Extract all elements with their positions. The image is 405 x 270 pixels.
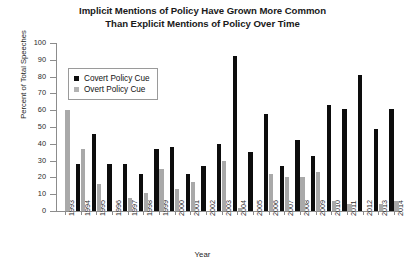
bar-overt-2013 (379, 204, 383, 211)
x-axis-tick (65, 211, 66, 215)
x-axis-tick (300, 211, 301, 215)
y-axis-tick (50, 211, 56, 212)
y-axis-tick (50, 194, 56, 195)
bar-covert-1996 (107, 164, 111, 211)
legend-label-covert: Covert Policy Cue (84, 74, 150, 83)
y-axis-tick (50, 110, 56, 111)
bar-covert-2011 (342, 109, 346, 211)
x-axis-title: Year (0, 250, 405, 259)
y-axis-tick-label: 0 (16, 207, 46, 214)
y-axis-tick (50, 60, 56, 61)
bar-covert-1998 (139, 174, 143, 211)
x-axis-tick (253, 211, 254, 215)
bar-overt-2009 (316, 172, 320, 211)
bar-covert-1994 (76, 164, 80, 211)
bar-covert-1997 (123, 164, 127, 211)
bar-overt-2006 (269, 174, 273, 211)
bar-overt-1997 (128, 198, 132, 211)
chart-title: Implicit Mentions of Policy Have Grown M… (0, 5, 405, 30)
x-axis-tick (206, 211, 207, 215)
legend-item-overt: Overt Policy Cue (74, 84, 150, 95)
x-axis-tick (81, 211, 82, 215)
x-axis-tick (175, 211, 176, 215)
bar-covert-2001 (186, 174, 190, 211)
bar-covert-2006 (264, 114, 268, 211)
bar-covert-2005 (248, 152, 252, 211)
bar-covert-1999 (154, 149, 158, 211)
bar-overt-2011 (347, 204, 351, 211)
chart-title-line-2: Than Explicit Mentions of Policy Over Ti… (0, 18, 405, 31)
x-axis-tick (112, 211, 113, 215)
bar-overt-1994 (81, 149, 85, 211)
y-axis-tick (50, 93, 56, 94)
y-axis-tick (50, 144, 56, 145)
bar-covert-2007 (280, 166, 284, 211)
bar-covert-2010 (327, 105, 331, 211)
bar-overt-2001 (191, 182, 195, 211)
x-axis-tick (316, 211, 317, 215)
y-axis-tick-label: 20 (16, 173, 46, 180)
legend-swatch-covert-icon (74, 76, 79, 81)
y-axis-title: Percent of Total Speeches (19, 0, 28, 150)
x-axis-tick (222, 211, 223, 215)
bar-covert-2014 (389, 109, 393, 211)
x-axis-tick (347, 211, 348, 215)
bar-overt-1998 (144, 193, 148, 211)
bar-overt-2007 (285, 177, 289, 211)
y-axis-tick (50, 43, 56, 44)
y-axis-tick (50, 127, 56, 128)
bar-covert-2008 (295, 140, 299, 211)
bar-covert-2012 (358, 75, 362, 211)
bar-chart: Implicit Mentions of Policy Have Grown M… (0, 0, 405, 270)
y-axis-tick-label: 30 (16, 157, 46, 164)
bar-covert-2004 (233, 56, 237, 211)
bar-covert-2003 (217, 144, 221, 211)
x-axis-tick (394, 211, 395, 215)
bar-overt-2000 (175, 189, 179, 211)
chart-legend: Covert Policy Cue Overt Policy Cue (68, 68, 158, 100)
x-axis-tick (128, 211, 129, 215)
bar-covert-1995 (92, 134, 96, 211)
bar-overt-1999 (159, 169, 163, 211)
bar-covert-2009 (311, 156, 315, 211)
y-axis-tick (50, 77, 56, 78)
x-axis-tick (269, 211, 270, 215)
bar-overt-2004 (238, 208, 242, 211)
y-axis-tick (50, 177, 56, 178)
legend-item-covert: Covert Policy Cue (74, 73, 150, 84)
legend-label-overt: Overt Policy Cue (84, 85, 145, 94)
y-axis-tick-label: 10 (16, 190, 46, 197)
bar-overt-2010 (332, 201, 336, 211)
bar-overt-2003 (222, 161, 226, 211)
bar-overt-2008 (300, 177, 304, 211)
y-axis-tick (50, 161, 56, 162)
bar-covert-2002 (201, 166, 205, 211)
legend-swatch-overt-icon (74, 87, 79, 92)
x-axis-tick (159, 211, 160, 215)
bar-overt-1993 (65, 110, 69, 211)
bar-overt-1995 (97, 184, 101, 211)
bar-covert-2000 (170, 147, 174, 211)
chart-title-line-1: Implicit Mentions of Policy Have Grown M… (0, 5, 405, 18)
bar-covert-2013 (374, 129, 378, 211)
x-axis-tick (363, 211, 364, 215)
bar-overt-2014 (394, 201, 398, 211)
